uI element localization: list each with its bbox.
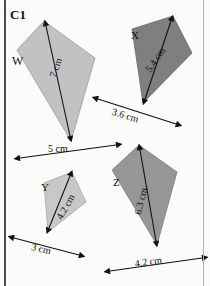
shape-kite-y xyxy=(14,172,86,255)
page-frame-left-rule xyxy=(4,0,6,286)
shape-kite-w xyxy=(17,21,116,158)
panel-code-label: C1 xyxy=(10,7,26,23)
kite-w-label: W xyxy=(12,54,23,69)
shape-kite-z xyxy=(110,145,202,271)
kite-w-polygon xyxy=(17,21,95,141)
figure-panel: C1 W X Y Z 7 cm 5 cm 5.4 cm 3.6 cm 4.2 c… xyxy=(0,0,210,286)
kite-z-label: Z xyxy=(113,176,120,188)
kite-w-base-dimension: 5 cm xyxy=(48,143,68,154)
kite-y-label: Y xyxy=(41,181,49,193)
page-frame-right-rule xyxy=(203,0,204,286)
kite-x-label: X xyxy=(131,29,139,41)
kite-w-base-arrow xyxy=(20,145,116,158)
